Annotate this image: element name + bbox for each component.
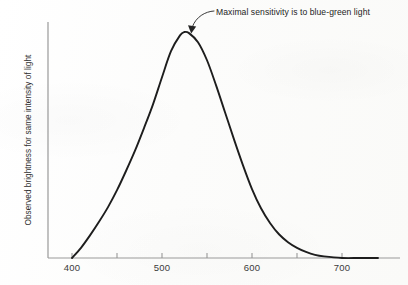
plot-area <box>0 0 408 285</box>
x-axis-ticks <box>72 253 342 258</box>
chart-figure: Observed brightness for same intensity o… <box>0 0 408 285</box>
sensitivity-curve <box>72 32 378 258</box>
callout-leader-line <box>193 11 215 27</box>
